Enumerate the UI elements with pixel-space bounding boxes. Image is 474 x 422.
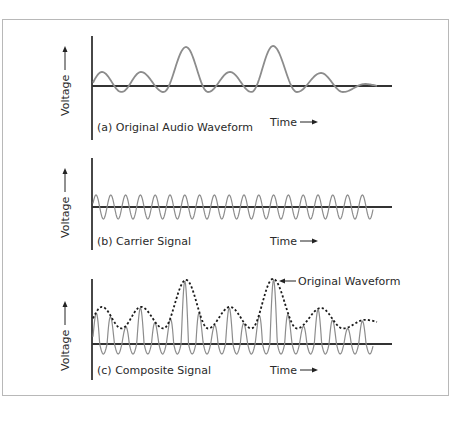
y-axis-label: Voltage [59,301,72,371]
arrowhead-icon [312,120,318,125]
svg-text:Voltage: Voltage [59,197,72,238]
arrowhead-icon [63,301,68,307]
panel-caption: (c) Composite Signal [97,364,211,377]
panel-a: Voltage (a) Original Audio Waveform Time [59,36,392,140]
annotation-arrowhead-icon [279,279,285,284]
arrowhead-icon [312,239,318,244]
arrowhead-icon [312,368,318,373]
panel-b: Voltage (b) Carrier Signal Time [59,158,392,250]
annotation-label: Original Waveform [298,275,400,288]
x-axis-label: Time [269,364,297,377]
arrowhead-icon [63,46,68,52]
y-axis-label: Voltage [59,168,72,238]
svg-text:Voltage: Voltage [59,330,72,371]
x-axis-label: Time [269,116,297,129]
am-modulation-figure: Voltage (a) Original Audio Waveform Time… [0,0,474,422]
panel-caption: (a) Original Audio Waveform [97,121,253,134]
arrowhead-icon [63,168,68,174]
panel-c: Voltage (c) Composite Signal Time Origin… [59,275,400,380]
x-axis-label: Time [269,235,297,248]
panel-caption: (b) Carrier Signal [97,235,191,248]
y-axis-label: Voltage [59,46,72,116]
svg-text:Voltage: Voltage [59,75,72,116]
